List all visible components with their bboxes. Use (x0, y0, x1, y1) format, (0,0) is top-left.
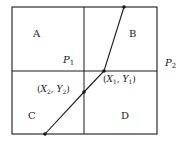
point-label-x2y2: (X2, Y2) (37, 84, 70, 95)
region-label-a: A (32, 28, 41, 39)
plane-p2-sub: 2 (172, 62, 176, 70)
point-label-x1y1: (X1, Y1) (103, 74, 136, 85)
end-point-marker (43, 132, 47, 136)
region-label-b: B (129, 28, 136, 39)
pt2-close-paren: ) (66, 84, 70, 94)
pt1-close-paren: ) (132, 74, 136, 84)
plane-label-p1: P1 (62, 54, 74, 67)
point-x1y1-marker (102, 69, 106, 73)
region-label-c: C (28, 110, 36, 121)
diagram-canvas: A B C D P1 P2 (X1, Y1) (X2, Y2) (0, 0, 187, 142)
plane-p1-sub: 1 (70, 59, 74, 67)
plane-label-p2: P2 (164, 57, 176, 70)
region-label-d: D (121, 110, 129, 121)
start-point-marker (122, 5, 126, 9)
point-x2y2-marker (82, 90, 86, 94)
